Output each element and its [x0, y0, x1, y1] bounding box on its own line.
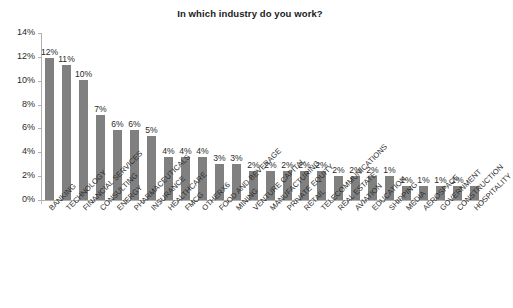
y-axis-tick-label: 4% — [22, 146, 35, 156]
x-axis-tick-mark — [41, 201, 42, 204]
y-axis-tick-label: 2% — [22, 170, 35, 180]
y-axis-tick-label: 10% — [17, 75, 35, 85]
y-axis-tick-label: 0% — [22, 194, 35, 204]
bar[interactable] — [62, 65, 71, 200]
chart-title: In which industry do you work? — [0, 8, 500, 19]
y-axis-tick-label: 14% — [17, 27, 35, 37]
y-axis-tick-label: 12% — [17, 51, 35, 61]
bar-value-label: 5% — [141, 125, 163, 135]
bar-value-label: 1% — [379, 165, 401, 175]
bar-value-label: 10% — [73, 69, 95, 79]
y-axis-tick-label: 8% — [22, 99, 35, 109]
bar-value-label: 7% — [90, 104, 112, 114]
bar-value-label: 11% — [56, 54, 78, 64]
y-axis-tick-label: 6% — [22, 122, 35, 132]
bar[interactable] — [45, 58, 54, 200]
